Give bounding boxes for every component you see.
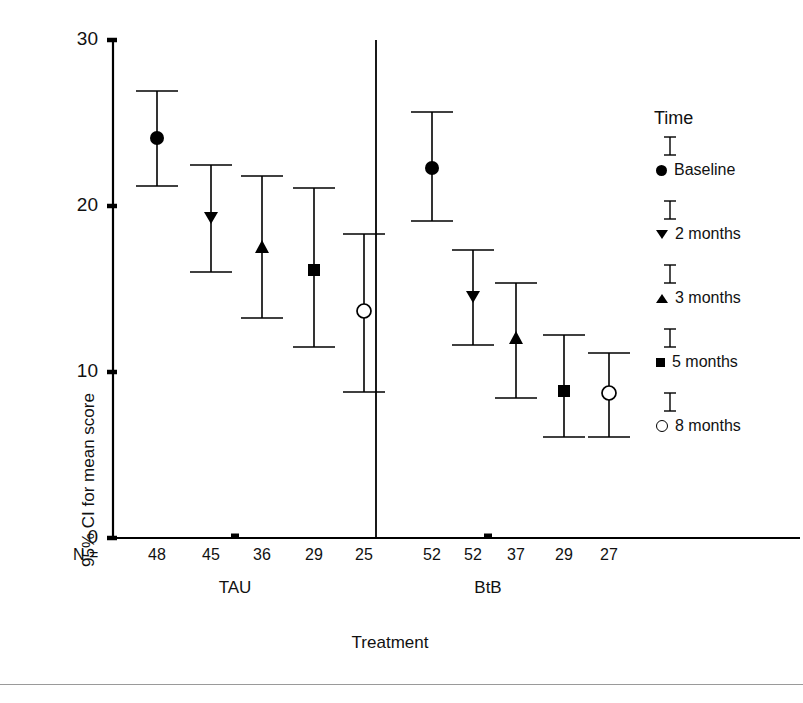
legend-label-8-months: 8 months: [675, 417, 741, 435]
n-label-prefix: N =: [73, 546, 98, 564]
legend-item-baseline[interactable]: Baseline: [648, 135, 798, 199]
filled-triangle-up-icon: [656, 294, 668, 303]
legend-label-baseline: Baseline: [674, 161, 735, 179]
legend-label-2-months: 2 months: [675, 225, 741, 243]
legend: Time Baseline 2 months: [648, 108, 798, 455]
page-divider: [0, 684, 803, 685]
legend-item-3-months[interactable]: 3 months: [648, 263, 798, 327]
marker-btb-baseline: [425, 161, 439, 175]
chart-figure: 95% CI for mean score 30 20 10 0: [0, 0, 803, 703]
n-value-btb-3: 29: [539, 546, 589, 564]
filled-circle-icon: [656, 165, 667, 176]
n-value-btb-4: 27: [584, 546, 634, 564]
marker-btb-3months: [509, 331, 523, 344]
x-axis-title: Treatment: [290, 633, 490, 653]
marker-tau-8months: [357, 304, 371, 318]
n-value-tau-4: 25: [339, 546, 389, 564]
marker-btb-8months: [602, 386, 616, 400]
legend-item-2-months[interactable]: 2 months: [648, 199, 798, 263]
marker-tau-baseline: [150, 131, 164, 145]
filled-square-icon: [656, 358, 665, 367]
group-label-btb: BtB: [428, 578, 548, 598]
errorbar-icon: [662, 135, 678, 157]
group-label-tau: TAU: [175, 578, 295, 598]
n-value-btb-2: 37: [491, 546, 541, 564]
legend-label-3-months: 3 months: [675, 289, 741, 307]
open-circle-icon: [656, 420, 668, 432]
marker-btb-5months: [558, 385, 570, 397]
marker-tau-2months: [204, 212, 218, 224]
n-value-tau-1: 45: [186, 546, 236, 564]
errorbar-icon: [662, 263, 678, 285]
legend-title: Time: [654, 108, 798, 129]
legend-item-5-months[interactable]: 5 months: [648, 327, 798, 391]
legend-label-5-months: 5 months: [672, 353, 738, 371]
marker-tau-3months: [255, 240, 269, 253]
errorbar-icon: [662, 327, 678, 349]
marker-btb-2months: [466, 291, 480, 303]
n-value-tau-3: 29: [289, 546, 339, 564]
n-value-tau-0: 48: [132, 546, 182, 564]
legend-item-8-months[interactable]: 8 months: [648, 391, 798, 455]
n-value-tau-2: 36: [237, 546, 287, 564]
errorbar-icon: [662, 391, 678, 413]
filled-triangle-down-icon: [656, 230, 668, 239]
errorbar-icon: [662, 199, 678, 221]
marker-tau-5months: [308, 264, 320, 276]
